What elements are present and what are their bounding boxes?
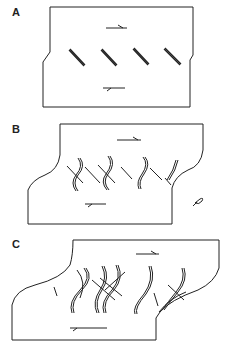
panel-c-outline [12,240,219,340]
panel-c [12,240,219,340]
sigmoidal-gashes-b [67,156,178,191]
sigma-clast-symbol [193,198,203,206]
tension-gashes-a [69,48,181,66]
sigmoidal-gashes-c [54,265,186,314]
shear-arrow-bottom-c [70,328,107,331]
shear-arrow-top-b [117,137,141,140]
shear-arrow-bottom-b [85,204,106,207]
shear-arrow-bottom-a [103,88,125,91]
panel-b-outline [28,124,203,224]
shear-arrow-top-c [136,251,159,254]
panel-a [43,7,193,107]
shear-diagram [0,0,226,348]
shear-arrow-top-a [106,25,127,28]
panel-b [28,124,203,224]
panel-a-outline [43,7,193,107]
